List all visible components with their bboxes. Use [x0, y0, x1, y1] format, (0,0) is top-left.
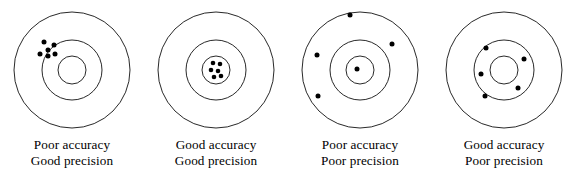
shot-dot: [218, 62, 223, 67]
shot-dot: [52, 43, 57, 48]
target-rings-3: [288, 0, 432, 136]
shot-dot: [348, 13, 353, 18]
target-rings-2: [144, 0, 288, 136]
shot-dot: [209, 68, 214, 73]
inner-ring: [490, 56, 518, 84]
middle-ring: [474, 40, 534, 100]
middle-ring: [330, 40, 390, 100]
accuracy-precision-figure: Poor accuracyGood precisionGood accuracy…: [0, 0, 576, 191]
shot-dot: [38, 52, 43, 57]
shot-dot: [355, 67, 360, 72]
target-caption-4: Good accuracyPoor precision: [432, 137, 576, 169]
caption-accuracy-line: Good accuracy: [144, 137, 288, 153]
target-caption-2: Good accuracyGood precision: [144, 137, 288, 169]
caption-precision-line: Good precision: [0, 153, 144, 169]
shot-dot: [219, 74, 224, 79]
target-rings-4: [432, 0, 576, 136]
outer-ring: [302, 12, 418, 128]
shot-dot: [316, 94, 321, 99]
shot-dot: [479, 72, 484, 77]
shot-dot: [46, 48, 51, 53]
panel-good-accuracy-poor-precision: Good accuracyPoor precision: [432, 0, 576, 191]
target-caption-1: Poor accuracyGood precision: [0, 137, 144, 169]
caption-precision-line: Good precision: [144, 153, 288, 169]
panel-good-accuracy-good-precision: Good accuracyGood precision: [144, 0, 288, 191]
inner-ring: [346, 56, 374, 84]
panel-poor-accuracy-good-precision: Poor accuracyGood precision: [0, 0, 144, 191]
shot-dot: [516, 86, 521, 91]
target-rings-1: [0, 0, 144, 136]
shot-dot: [522, 57, 527, 62]
caption-accuracy-line: Good accuracy: [432, 137, 576, 153]
shot-dot: [390, 42, 395, 47]
outer-ring: [446, 12, 562, 128]
shot-dot: [46, 54, 51, 59]
shot-dot: [212, 75, 217, 80]
inner-ring: [58, 56, 86, 84]
shot-dot: [315, 53, 320, 58]
panel-poor-accuracy-poor-precision: Poor accuracyPoor precision: [288, 0, 432, 191]
shot-dot: [211, 61, 216, 66]
shot-dot: [216, 69, 221, 74]
caption-accuracy-line: Poor accuracy: [0, 137, 144, 153]
shot-dot: [483, 94, 488, 99]
shot-dot: [42, 40, 47, 45]
shot-dot: [484, 46, 489, 51]
caption-precision-line: Poor precision: [432, 153, 576, 169]
target-caption-3: Poor accuracyPoor precision: [288, 137, 432, 169]
caption-accuracy-line: Poor accuracy: [288, 137, 432, 153]
middle-ring: [42, 40, 102, 100]
caption-precision-line: Poor precision: [288, 153, 432, 169]
outer-ring: [14, 12, 130, 128]
shot-dot: [53, 52, 58, 57]
